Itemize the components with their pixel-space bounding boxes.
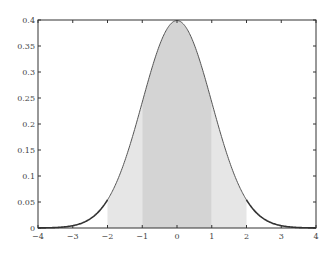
x-tick-label: 1 [209, 232, 214, 241]
y-tick-label: 0 [30, 224, 35, 233]
normal-distribution-chart: −4−3−2−101234 00.050.10.150.20.250.30.35… [0, 0, 336, 253]
y-tick-label: 0.25 [17, 94, 35, 103]
x-tick-label: −4 [32, 232, 44, 241]
x-tick-label: 2 [244, 232, 249, 241]
y-tick-label: 0.3 [22, 68, 35, 77]
x-tick-label: 3 [279, 232, 284, 241]
y-tick-label: 0.2 [22, 120, 35, 129]
shaded-regions [108, 21, 247, 228]
shaded-region-1 [142, 21, 212, 228]
x-tick-label: −2 [102, 232, 114, 241]
x-tick-label: −1 [136, 232, 148, 241]
y-tick-label: 0.1 [22, 172, 35, 181]
y-tick-label: 0.4 [22, 16, 35, 25]
x-tick-label: 0 [174, 232, 179, 241]
y-tick-label: 0.15 [17, 146, 35, 155]
y-tick-label: 0.05 [17, 198, 35, 207]
y-tick-label: 0.35 [17, 42, 35, 51]
x-tick-label: −3 [67, 232, 79, 241]
x-tick-label: 4 [313, 232, 318, 241]
